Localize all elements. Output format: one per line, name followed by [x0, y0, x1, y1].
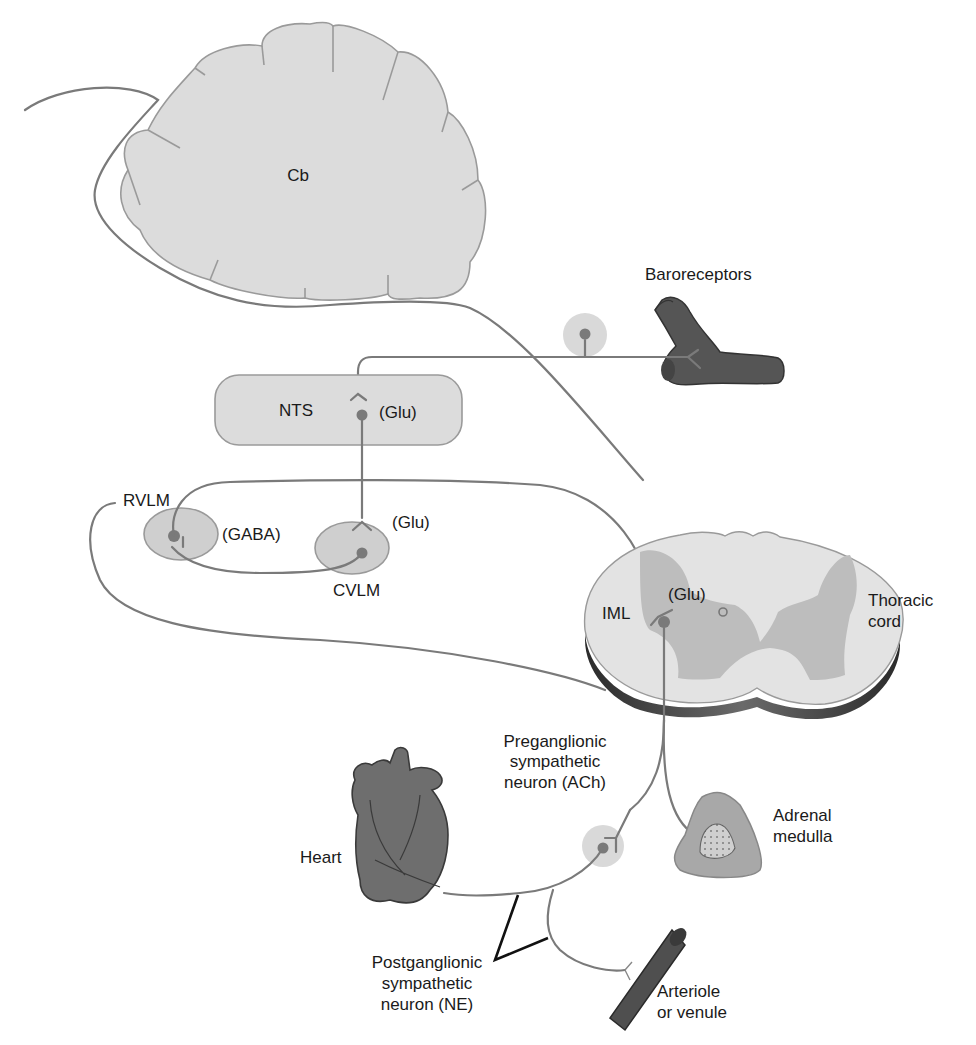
- nts-transmitter: (Glu): [379, 403, 417, 422]
- iml-transmitter: (Glu): [668, 585, 706, 604]
- rvlm-label: RVLM: [123, 491, 170, 510]
- nts-soma: [357, 410, 368, 421]
- preganglionic-label-3: neuron (ACh): [504, 773, 606, 792]
- baroreceptors-label: Baroreceptors: [645, 265, 752, 284]
- cvlm-transmitter: (Glu): [392, 513, 430, 532]
- adrenal-medulla: [675, 792, 762, 877]
- afferent-soma: [580, 329, 591, 340]
- postganglionic-pointer: [495, 895, 548, 960]
- preganglionic-label-1: Preganglionic: [503, 732, 607, 751]
- heart: [352, 748, 448, 903]
- postganglionic-label-1: Postganglionic: [372, 953, 483, 972]
- iml-label: IML: [602, 604, 630, 623]
- rvlm-transmitter: (GABA): [222, 525, 281, 544]
- postganglionic-fiber-vessel: [548, 890, 625, 970]
- postganglionic-label-3: neuron (NE): [381, 995, 474, 1014]
- heart-label: Heart: [300, 848, 342, 867]
- thoracic-cord-label-1: Thoracic: [868, 591, 934, 610]
- arteriole-label-2: or venule: [657, 1003, 727, 1022]
- cerebellum-label: Cb: [287, 166, 309, 185]
- postganglionic-fiber-heart: [444, 848, 603, 895]
- iml-soma: [658, 616, 670, 628]
- nts-region: [215, 375, 462, 445]
- rvlm-iml-fiber: [173, 480, 655, 627]
- thoracic-cord-label-2: cord: [868, 612, 901, 631]
- cvlm-label: CVLM: [333, 581, 380, 600]
- rvlm-region: [144, 508, 218, 560]
- cerebellum: Cb: [121, 23, 486, 300]
- thoracic-cord: [585, 532, 903, 719]
- adrenal-label-2: medulla: [773, 827, 833, 846]
- preganglionic-label-2: sympathetic: [510, 752, 601, 771]
- nts-label: NTS: [279, 401, 313, 420]
- adrenal-label-1: Adrenal: [773, 806, 832, 825]
- arteriole-label-1: Arteriole: [657, 982, 720, 1001]
- cerebellum-shape: [121, 23, 486, 300]
- baroreceptor-vessel: [655, 297, 784, 385]
- baroreflex-diagram: Cb Baroreceptors NTS (Glu) RVLM (GABA) C…: [0, 0, 976, 1045]
- postganglionic-label-2: sympathetic: [382, 974, 473, 993]
